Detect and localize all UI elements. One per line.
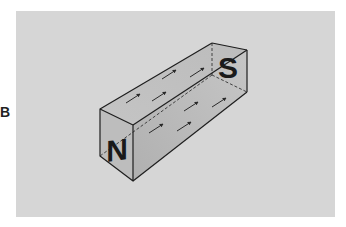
bar-magnet-diagram: S N — [0, 0, 346, 227]
south-pole-label: S — [218, 51, 238, 84]
north-pole-label: N — [106, 132, 128, 168]
